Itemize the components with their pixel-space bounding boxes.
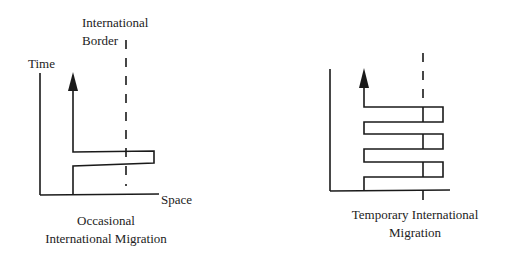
arrowhead-icon — [359, 68, 369, 88]
space-axis — [330, 190, 450, 191]
migration-path — [364, 86, 443, 191]
arrowhead-icon — [68, 72, 78, 91]
temporary-migration-diagram — [330, 53, 450, 200]
right-caption-line1: Temporary International — [340, 207, 490, 222]
y-axis-label: Time — [28, 56, 55, 71]
border-label-line2: Border — [82, 33, 118, 48]
occasional-migration-diagram — [40, 40, 159, 195]
space-axis — [40, 194, 159, 195]
border-label-line1: International — [82, 15, 148, 30]
left-caption-line2: International Migration — [36, 231, 176, 246]
right-caption-line2: Migration — [340, 225, 490, 240]
x-axis-label: Space — [161, 192, 192, 207]
migration-path — [73, 88, 154, 195]
left-caption-line1: Occasional — [36, 213, 176, 228]
